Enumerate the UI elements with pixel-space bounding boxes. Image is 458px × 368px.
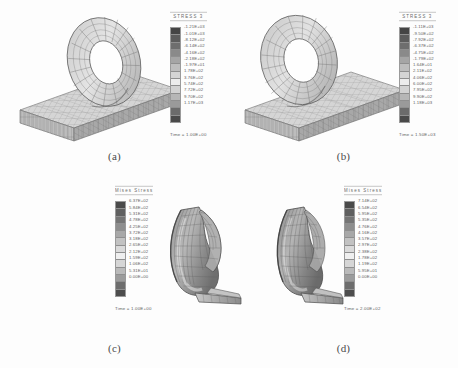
colorbar-swatch: [400, 63, 409, 70]
colorbar-swatch: [116, 230, 125, 237]
legend-title-d: Mises Stress: [344, 186, 382, 195]
colorbar-tick-label: 0.00E+00: [129, 274, 148, 280]
colorbar-swatch: [171, 71, 180, 78]
colorbar-swatch: [400, 100, 409, 107]
colorbar-b: [399, 27, 410, 123]
colorbar-swatch: [400, 34, 409, 41]
colorbar-tick-label: 0.00E+00: [358, 274, 377, 280]
legend-a: STRESS 3 -1.21E+03-1.01E+03-8.12E+02-6.1…: [170, 12, 207, 137]
mesh-render-a: [8, 10, 188, 150]
legend-title-b: STRESS 3: [399, 12, 436, 21]
colorbar-swatch: [171, 49, 180, 56]
time-label-d: Time = 2.00E+02: [344, 306, 382, 311]
colorbar-swatch: [116, 281, 125, 288]
colorbar-swatch: [116, 259, 125, 266]
colorbar-labels-b: -1.11E+03-9.50E+02-7.92E+02-6.37E+02-4.7…: [413, 24, 434, 106]
colorbar-swatch: [400, 107, 409, 114]
colorbar-tick-label: 1.18E+03: [413, 100, 434, 106]
colorbar-swatch: [400, 42, 409, 49]
mesh-render-d: [259, 198, 349, 313]
panel-caption-d: (d): [229, 342, 458, 354]
colorbar-swatch: [116, 274, 125, 281]
colorbar-a: [170, 27, 181, 123]
colorbar-swatch: [116, 289, 125, 296]
panel-caption-c: (c): [0, 342, 229, 354]
figure-bottom-edge: [0, 364, 458, 368]
colorbar-swatch: [116, 245, 125, 252]
colorbar-c: [115, 201, 126, 297]
time-label-b: Time = 1.50E+03: [399, 132, 436, 137]
colorbar-swatch: [400, 49, 409, 56]
colorbar-swatch: [400, 71, 409, 78]
colorbar-swatch: [171, 63, 180, 70]
time-label-a: Time = 1.00E+00: [170, 132, 207, 137]
figure-panel-c: Mises Stress 6.37E+025.84E+025.31E+024.7…: [0, 184, 229, 368]
colorbar-swatch: [400, 56, 409, 63]
colorbar-swatch: [400, 85, 409, 92]
legend-d: Mises Stress 7.14E+026.54E+025.95E+025.3…: [344, 186, 382, 311]
colorbar-swatch: [171, 85, 180, 92]
colorbar-swatch: [171, 107, 180, 114]
time-label-c: Time = 1.00E+00: [115, 306, 153, 311]
colorbar-swatch: [400, 78, 409, 85]
figure-root: STRESS 3 -1.21E+03-1.01E+03-8.12E+02-6.1…: [0, 0, 458, 368]
colorbar-swatch: [116, 237, 125, 244]
colorbar-labels-a: -1.21E+03-1.01E+03-8.12E+02-6.14E+02-4.1…: [184, 24, 205, 106]
legend-title-a: STRESS 3: [170, 12, 207, 21]
colorbar-labels-d: 7.14E+026.54E+025.95E+025.35E+024.76E+02…: [358, 198, 377, 280]
colorbar-swatch: [400, 93, 409, 100]
colorbar-labels-c: 6.37E+025.84E+025.31E+024.78E+024.25E+02…: [129, 198, 148, 280]
colorbar-tick-label: 1.17E+03: [184, 100, 205, 106]
colorbar-swatch: [171, 56, 180, 63]
figure-panel-a: STRESS 3 -1.21E+03-1.01E+03-8.12E+02-6.1…: [0, 0, 229, 184]
legend-b: STRESS 3 -1.11E+03-9.50E+02-7.92E+02-6.3…: [399, 12, 436, 137]
figure-panel-d: Mises Stress 7.14E+026.54E+025.95E+025.3…: [229, 184, 458, 368]
colorbar-swatch: [400, 115, 409, 122]
colorbar-swatch: [116, 223, 125, 230]
colorbar-swatch: [116, 267, 125, 274]
figure-panel-b: STRESS 3 -1.11E+03-9.50E+02-7.92E+02-6.3…: [229, 0, 458, 184]
colorbar-swatch: [171, 93, 180, 100]
legend-title-c: Mises Stress: [115, 186, 153, 195]
legend-c: Mises Stress 6.37E+025.84E+025.31E+024.7…: [115, 186, 153, 311]
colorbar-swatch: [171, 100, 180, 107]
colorbar-swatch: [116, 208, 125, 215]
panel-caption-a: (a): [0, 150, 229, 162]
panel-caption-b: (b): [229, 150, 458, 162]
colorbar-swatch: [116, 252, 125, 259]
colorbar-swatch: [116, 216, 125, 223]
colorbar-swatch: [171, 78, 180, 85]
colorbar-swatch: [171, 42, 180, 49]
mesh-render-b: [233, 10, 413, 150]
colorbar-swatch: [171, 115, 180, 122]
colorbar-swatch: [171, 34, 180, 41]
